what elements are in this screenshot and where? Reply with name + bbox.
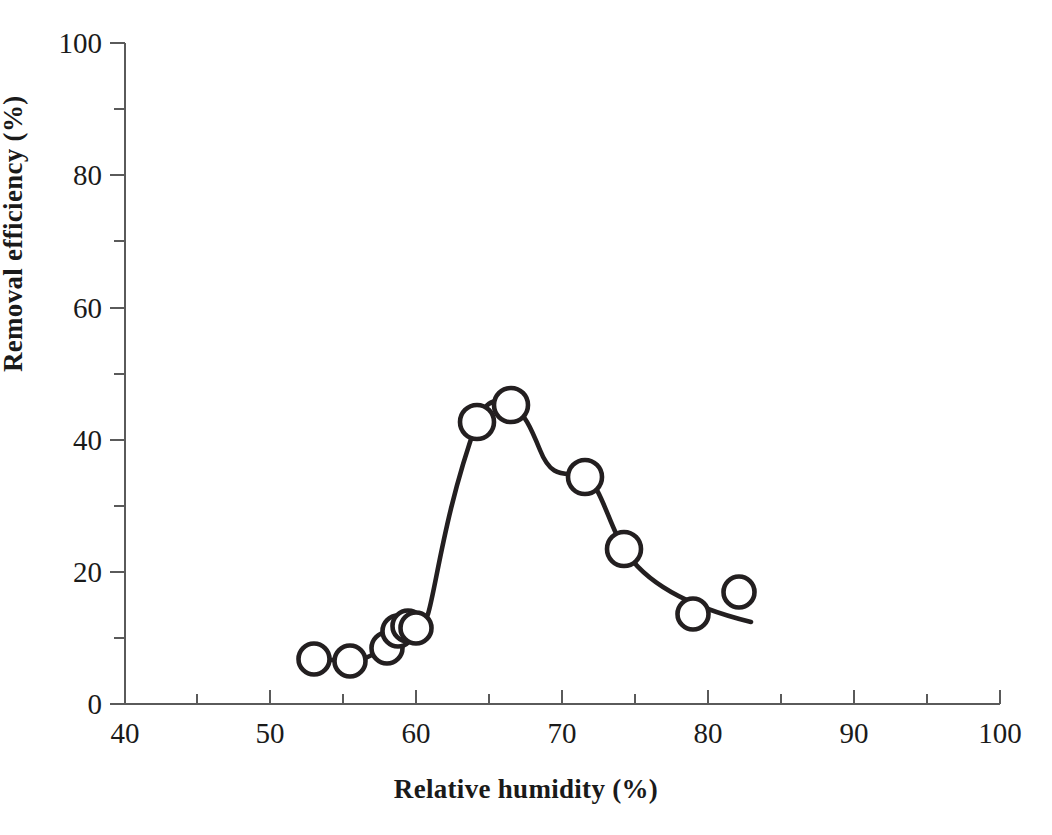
data-point: [401, 613, 432, 644]
y-tick-label-60: 60: [40, 294, 102, 323]
y-tick-label-80: 80: [40, 161, 102, 190]
axis-lines: [125, 43, 1000, 704]
y-tick-label-40: 40: [40, 426, 102, 455]
data-point: [299, 644, 330, 675]
data-point: [678, 599, 709, 630]
data-point: [335, 646, 366, 677]
chart-figure: 100 80 60 40 20 0 40 50 60 70 80 90 100 …: [0, 0, 1052, 835]
x-tick-label-90: 90: [840, 719, 869, 748]
data-point: [607, 532, 641, 566]
data-point: [568, 460, 602, 494]
y-tick-label-20: 20: [40, 558, 102, 587]
data-point: [494, 388, 528, 422]
y-axis-title: Removal efficiency (%): [0, 96, 27, 373]
data-point: [460, 405, 494, 439]
x-tick-label-50: 50: [256, 719, 285, 748]
x-tick-label-80: 80: [694, 719, 723, 748]
x-tick-label-70: 70: [548, 719, 577, 748]
x-tick-label-60: 60: [402, 719, 431, 748]
x-major-ticks: [125, 690, 1000, 704]
x-axis-title: Relative humidity (%): [0, 776, 1052, 803]
y-minor-ticks: [114, 109, 125, 638]
x-tick-label-40: 40: [111, 719, 140, 748]
data-point: [724, 577, 755, 608]
y-tick-label-100: 100: [40, 29, 102, 58]
chart-plot-area: [0, 0, 1052, 835]
y-tick-label-0: 0: [40, 690, 102, 719]
data-point-markers: [299, 388, 755, 677]
x-tick-label-100: 100: [978, 719, 1022, 748]
